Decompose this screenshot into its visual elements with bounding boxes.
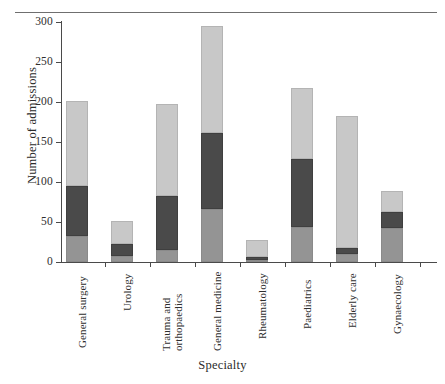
y-tick-label-300: 300 [13,16,53,28]
y-tick-label-0: 0 [13,256,53,268]
bar-segment-middle [66,186,88,236]
x-tick-4 [285,262,286,267]
bar-segment-top [66,101,88,186]
chart-figure: 300 250 200 150 100 50 0 [0,0,445,384]
plot-area [62,22,437,262]
bar-paediatrics[interactable] [291,88,313,262]
bar-segment-middle [201,133,223,209]
bar-rheumatology[interactable] [246,240,268,262]
bar-segment-bottom [381,228,403,262]
x-label-rheumatology: Rheumatology [256,273,268,339]
x-tick-5 [330,262,331,267]
x-label-trauma-and-orthopaedics: Trauma and orthopaedics [160,265,184,351]
bar-segment-middle [291,159,313,227]
x-label-gynaecology: Gynaecology [391,274,403,334]
x-label-elderly-care: Elderly care [346,273,358,328]
y-tick-0 [56,262,62,263]
x-tick-1 [150,262,151,267]
bar-segment-top [246,240,268,258]
x-tick-3 [240,262,241,267]
y-axis-title: Number of admissions [25,46,40,206]
bar-elderly-care[interactable] [336,116,358,262]
x-label-general-medicine: General medicine [211,272,223,351]
bar-segment-bottom [66,236,88,262]
x-label-paediatrics: Paediatrics [301,280,313,329]
bar-segment-top [291,88,313,159]
x-label-general-surgery: General surgery [76,276,88,348]
bar-segment-top [156,104,178,197]
x-label-urology: Urology [121,274,133,311]
x-tick-2 [195,262,196,267]
bar-segment-bottom [246,260,268,262]
bar-segment-bottom [291,227,313,262]
top-rule-divider [15,12,437,13]
bar-segment-bottom [201,209,223,262]
bar-gynaecology[interactable] [381,191,403,262]
x-axis-title: Specialty [0,358,445,373]
bar-segment-bottom [336,254,358,262]
x-label-line-2: orthopaedics [172,265,184,351]
bar-segment-bottom [156,250,178,262]
x-tick-7 [420,262,421,267]
bar-segment-middle [381,212,403,229]
x-label-line-1: Trauma and [160,265,172,351]
bar-segment-top [111,221,133,244]
bar-segment-middle [246,257,268,259]
y-tick-label-50: 50 [13,216,53,228]
x-tick-0 [105,262,106,267]
bar-segment-middle [336,248,358,254]
bar-segment-middle [156,196,178,250]
x-tick-6 [375,262,376,267]
bar-general-surgery[interactable] [66,101,88,262]
bar-segment-top [201,26,223,133]
bar-segment-middle [111,244,133,255]
bar-segment-top [381,191,403,212]
bar-segment-top [336,116,358,248]
x-axis-line [61,262,437,263]
bar-segment-bottom [111,256,133,262]
bar-general-medicine[interactable] [201,26,223,262]
bar-trauma-and-orthopaedics[interactable] [156,104,178,262]
bar-urology[interactable] [111,221,133,262]
